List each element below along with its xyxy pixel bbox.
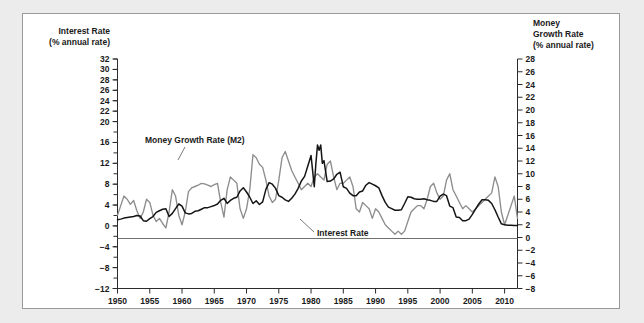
right-axis-ticks: 2826242220181614121086420−2−4−6−8	[518, 54, 536, 294]
x-tick-label: 1985	[334, 296, 353, 306]
x-axis-ticks: 1950195519601965197019751980198519901995…	[108, 289, 514, 306]
left-tick-label: −4	[100, 242, 110, 252]
annotation-interest-rate: Interest Rate	[317, 228, 369, 238]
left-tick-label: 22	[100, 106, 110, 116]
left-tick-label: 8	[105, 179, 110, 189]
left-tick-label: 26	[100, 85, 110, 95]
left-tick-label: 16	[100, 137, 110, 147]
interest-rate-series	[118, 145, 518, 225]
right-tick-label: −2	[526, 245, 536, 255]
right-axis-title-line2: Growth Rate	[533, 29, 584, 39]
left-tick-label: −8	[100, 263, 110, 273]
x-tick-label: 2005	[463, 296, 482, 306]
left-tick-label: 24	[100, 96, 110, 106]
right-tick-label: 26	[526, 67, 536, 77]
right-tick-label: 2	[526, 220, 531, 230]
x-tick-label: 1995	[398, 296, 417, 306]
money-growth-rate-series	[118, 151, 518, 234]
annotation-money-growth-rate: Money Growth Rate (M2)	[145, 135, 245, 145]
left-tick-label: 32	[100, 54, 110, 64]
x-tick-label: 1975	[269, 296, 288, 306]
left-tick-label: 4	[105, 200, 110, 210]
annotation-money-leader-line	[178, 147, 185, 160]
x-tick-label: 1970	[237, 296, 256, 306]
x-tick-label: 1955	[140, 296, 159, 306]
right-tick-label: 24	[526, 80, 536, 90]
right-tick-label: −8	[526, 284, 536, 294]
x-tick-label: 1965	[205, 296, 224, 306]
annotation-interest-leader-line	[300, 219, 314, 232]
right-tick-label: 16	[526, 131, 536, 141]
right-tick-label: 4	[526, 207, 531, 217]
left-tick-label: −12	[95, 284, 110, 294]
x-tick-label: 1980	[302, 296, 321, 306]
right-tick-label: 8	[526, 182, 531, 192]
right-tick-label: 22	[526, 92, 536, 102]
left-axis-title-line1: Interest Rate	[59, 26, 111, 36]
x-tick-label: 1950	[108, 296, 127, 306]
right-tick-label: 20	[526, 105, 536, 115]
right-tick-label: 0	[526, 233, 531, 243]
x-tick-label: 1960	[173, 296, 192, 306]
left-tick-label: 30	[100, 64, 110, 74]
left-axis-title-line2: (% annual rate)	[49, 37, 110, 47]
right-tick-label: 6	[526, 194, 531, 204]
right-tick-label: −6	[526, 271, 536, 281]
x-tick-label: 2010	[495, 296, 514, 306]
x-tick-label: 1990	[366, 296, 385, 306]
right-axis-title-line1: Money	[533, 18, 560, 28]
right-tick-label: −4	[526, 258, 536, 268]
left-tick-label: 12	[100, 158, 110, 168]
right-tick-label: 12	[526, 156, 536, 166]
chart-svg: Interest Rate (% annual rate) Money Grow…	[0, 0, 644, 323]
figure-background: Interest Rate (% annual rate) Money Grow…	[0, 0, 644, 323]
left-axis-ticks: 323028262422201612840−4−8−12	[95, 54, 117, 294]
right-tick-label: 28	[526, 54, 536, 64]
left-tick-label: 20	[100, 117, 110, 127]
right-axis-title-line3: (% annual rate)	[533, 40, 594, 50]
left-tick-label: 0	[105, 221, 110, 231]
left-tick-label: 28	[100, 75, 110, 85]
right-tick-label: 10	[526, 169, 536, 179]
right-tick-label: 14	[526, 143, 536, 153]
right-tick-label: 18	[526, 118, 536, 128]
x-tick-label: 2000	[431, 296, 450, 306]
